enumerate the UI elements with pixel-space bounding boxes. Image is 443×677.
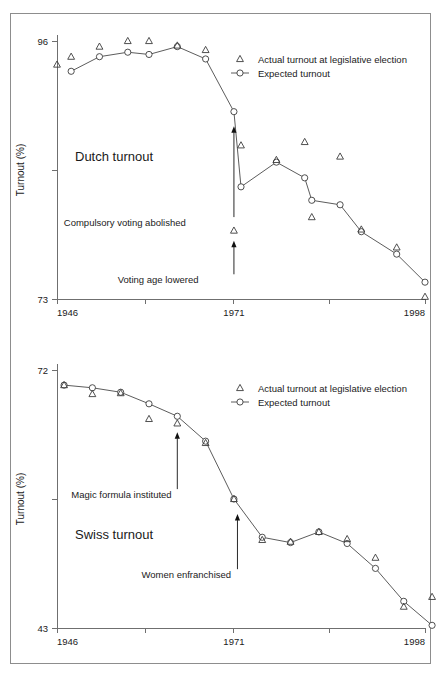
- y-axis-title: Turnout (%): [15, 144, 26, 196]
- data-point-expected: [174, 413, 180, 419]
- legend: Actual turnout at legislative electionEx…: [231, 383, 407, 408]
- data-point-actual: [308, 214, 315, 220]
- data-point-actual: [96, 43, 103, 49]
- legend-triangle-icon: [237, 384, 244, 390]
- data-point-actual: [202, 46, 209, 52]
- data-point-expected: [422, 279, 428, 285]
- data-point-expected: [429, 622, 435, 628]
- data-point-actual: [89, 390, 96, 396]
- legend: Actual turnout at legislative electionEx…: [231, 54, 407, 79]
- annotation-label: Voting age lowered: [118, 274, 199, 285]
- legend-circle-icon: [237, 70, 243, 76]
- data-point-actual: [238, 142, 245, 148]
- data-point-actual: [124, 37, 131, 43]
- legend-label-expected: Expected turnout: [258, 68, 330, 79]
- panel-title-swiss: Swiss turnout: [75, 527, 153, 542]
- data-point-actual: [146, 37, 153, 43]
- data-point-expected: [231, 109, 237, 115]
- chart-panel-swiss: 1946197119984372Turnout (%)Swiss turnout…: [0, 342, 443, 664]
- chart-panel-dutch: 1946197119987396Turnout (%)Dutch turnout…: [0, 13, 443, 335]
- annotation-arrow-head: [231, 241, 236, 248]
- data-point-actual: [301, 138, 308, 144]
- y-tick-label: 43: [37, 623, 48, 634]
- data-point-actual: [337, 153, 344, 159]
- data-point-expected: [309, 197, 315, 203]
- x-tick-label: 1998: [404, 307, 425, 318]
- data-point-actual: [429, 593, 436, 599]
- data-point-expected: [238, 184, 244, 190]
- axes-group: 1946197119987396Turnout (%): [15, 35, 425, 318]
- series-expected: [68, 44, 428, 286]
- legend-label-actual: Actual turnout at legislative election: [258, 383, 407, 394]
- legend-circle-icon: [237, 399, 243, 405]
- data-point-expected: [96, 54, 102, 60]
- figure-root: 1946197119987396Turnout (%)Dutch turnout…: [0, 0, 443, 677]
- data-point-expected: [203, 56, 209, 62]
- chart-svg-dutch: 1946197119987396Turnout (%)Dutch turnout…: [0, 13, 443, 335]
- annotation-2: Voting age lowered: [118, 241, 237, 286]
- legend-label-expected: Expected turnout: [258, 397, 330, 408]
- panel-title-dutch: Dutch turnout: [75, 149, 153, 164]
- data-point-expected: [146, 51, 152, 57]
- data-point-actual: [393, 244, 400, 250]
- series-line: [71, 47, 425, 283]
- data-point-actual: [174, 420, 181, 426]
- data-point-actual: [400, 603, 407, 609]
- annotation-1: Compulsory voting abolished: [64, 126, 237, 228]
- data-point-expected: [68, 68, 74, 74]
- x-tick-label: 1971: [223, 636, 244, 647]
- annotation-1: Magic formula instituted: [71, 432, 180, 500]
- legend-label-actual: Actual turnout at legislative election: [258, 54, 407, 65]
- data-point-actual: [146, 415, 153, 421]
- annotation-label: Magic formula instituted: [71, 489, 171, 500]
- annotation-2: Women enfranchised: [141, 514, 240, 580]
- data-point-actual: [372, 554, 379, 560]
- y-tick-label: 73: [37, 294, 48, 305]
- data-point-expected: [146, 401, 152, 407]
- series-line: [64, 385, 432, 625]
- data-point-expected: [372, 565, 378, 571]
- x-tick-label: 1971: [223, 307, 244, 318]
- data-point-actual: [68, 53, 75, 59]
- y-tick-label: 72: [37, 365, 48, 376]
- x-tick-label: 1946: [57, 636, 78, 647]
- annotation-label: Compulsory voting abolished: [64, 217, 186, 228]
- annotation-label: Women enfranchised: [141, 569, 231, 580]
- data-point-expected: [125, 49, 131, 55]
- data-point-expected: [337, 202, 343, 208]
- chart-svg-swiss: 1946197119984372Turnout (%)Swiss turnout…: [0, 342, 443, 664]
- x-tick-label: 1998: [404, 636, 425, 647]
- data-point-expected: [394, 251, 400, 257]
- y-tick-label: 96: [37, 36, 48, 47]
- y-axis-title: Turnout (%): [15, 473, 26, 525]
- legend-triangle-icon: [237, 55, 244, 61]
- x-tick-label: 1946: [57, 307, 78, 318]
- annotation-arrow-head: [175, 432, 180, 439]
- data-point-actual: [231, 227, 238, 233]
- data-point-actual: [422, 293, 429, 299]
- annotation-arrow-head: [235, 514, 240, 521]
- series-actual: [54, 37, 429, 299]
- series-expected: [61, 382, 435, 628]
- data-point-expected: [302, 175, 308, 181]
- axes-group: 1946197119984372Turnout (%): [15, 364, 425, 647]
